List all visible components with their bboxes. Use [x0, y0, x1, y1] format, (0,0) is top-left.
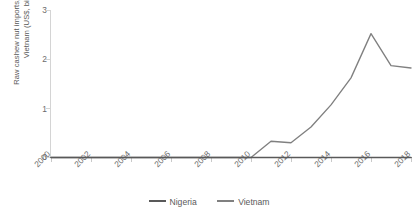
- legend-swatch-nigeria: [149, 200, 166, 202]
- series-canvas: [0, 0, 418, 216]
- chart-container: Raw cashew nut imports, Nigeria and Viet…: [0, 0, 418, 216]
- legend-item-nigeria: Nigeria: [149, 196, 197, 207]
- legend-label-vietnam: Vietnam: [238, 197, 269, 207]
- line-series-vietnam: [51, 34, 411, 158]
- legend-swatch-vietnam: [217, 200, 234, 202]
- legend-label-nigeria: Nigeria: [170, 197, 197, 207]
- chart-legend: Nigeria Vietnam: [0, 196, 418, 207]
- legend-item-vietnam: Vietnam: [217, 196, 269, 207]
